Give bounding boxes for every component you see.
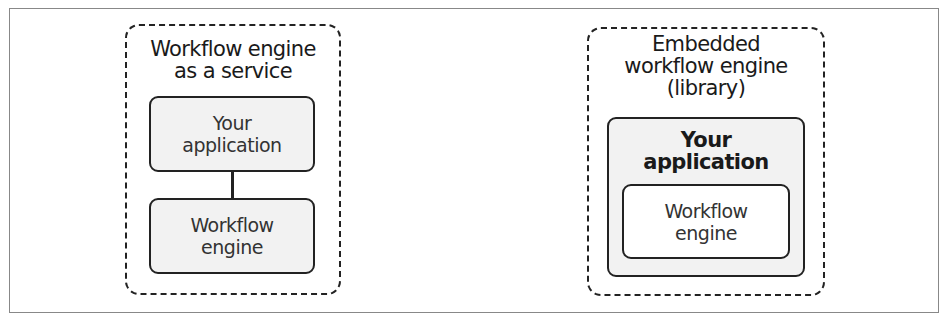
- service-app-label-line1: Your: [213, 112, 252, 134]
- service-connector-line: [231, 172, 234, 199]
- embedded-app-label-line1: Your: [681, 129, 732, 151]
- embedded-engine-box: Workflow engine: [622, 184, 790, 259]
- service-app-box: Your application: [149, 96, 315, 172]
- embedded-engine-label-line2: engine: [675, 222, 737, 244]
- service-engine-label-line2: engine: [201, 236, 263, 258]
- service-title-line2: as a service: [125, 60, 341, 82]
- embedded-app-label-line2: application: [643, 151, 768, 173]
- service-app-label-line2: application: [182, 134, 281, 156]
- embedded-engine-label-line1: Workflow: [664, 200, 747, 222]
- embedded-title-line2: workflow engine: [587, 55, 825, 77]
- embedded-title-line3: (library): [587, 77, 825, 99]
- service-engine-label-line1: Workflow: [190, 214, 273, 236]
- service-engine-box: Workflow engine: [149, 198, 315, 274]
- embedded-title-line1: Embedded: [587, 33, 825, 55]
- embedded-title: Embedded workflow engine (library): [587, 33, 825, 99]
- service-title: Workflow engine as a service: [125, 38, 341, 82]
- service-title-line1: Workflow engine: [125, 38, 341, 60]
